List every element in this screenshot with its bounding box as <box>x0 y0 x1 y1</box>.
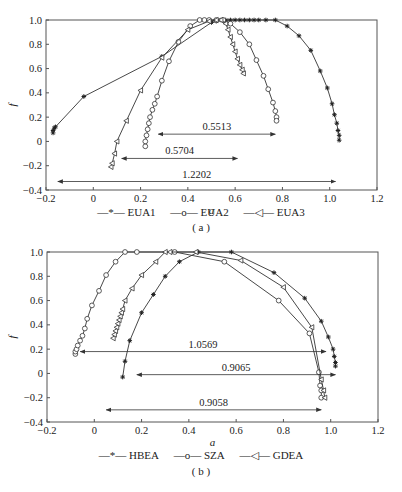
triangle-marker-icon: —◁— <box>243 206 273 218</box>
series-line-sza <box>75 252 321 398</box>
circle-marker-icon: —o— <box>170 206 198 218</box>
distance-label: 1.0569 <box>189 339 218 350</box>
distance-label: 0.5513 <box>202 121 231 132</box>
y-tick-label: 1.0 <box>29 15 42 26</box>
asterisk-marker-icon: —*— <box>99 449 127 461</box>
y-tick-label: 0.6 <box>30 295 43 306</box>
x-tick-label: 0.4 <box>181 193 195 204</box>
y-tick-label: −0.4 <box>24 417 44 428</box>
x-tick-label: 1.0 <box>323 193 336 204</box>
series-line-hbea <box>123 252 336 377</box>
y-tick-label: −0.2 <box>23 160 42 171</box>
y-tick-label: 0.2 <box>30 344 43 355</box>
legend-b: —*— HBEA —o— SZA —◁— GDEA <box>0 449 402 462</box>
circle-marker-icon: —o— <box>174 449 202 461</box>
x-tick-label: 1.2 <box>371 425 384 436</box>
x-tick-label: 0 <box>92 425 97 436</box>
distance-label: 0.9058 <box>199 397 228 408</box>
x-tick-label: 0.8 <box>277 425 290 436</box>
series-line-eua1 <box>53 20 339 140</box>
legend-item-eua1: —*— EUA1 <box>97 206 155 218</box>
y-axis-label: f <box>6 102 18 107</box>
chart-b: −0.200.20.40.60.81.01.2−0.4−0.200.20.40.… <box>0 232 402 457</box>
x-tick-label: 0.2 <box>135 425 148 436</box>
y-tick-label: 0.6 <box>29 63 42 74</box>
legend-item-gdea: —◁— GDEA <box>239 449 303 461</box>
y-tick-label: −0.4 <box>23 185 43 196</box>
distance-label: 1.2202 <box>182 169 211 180</box>
y-tick-label: 0 <box>38 368 43 379</box>
x-tick-label: 1.0 <box>324 425 337 436</box>
x-axis-label: a <box>210 436 216 448</box>
legend-a: —*— EUA1 —o— EUA2 —◁— EUA3 <box>0 206 402 219</box>
distance-label: 0.5704 <box>165 145 195 156</box>
y-tick-label: 0 <box>37 136 42 147</box>
x-tick-label: 0.6 <box>229 193 242 204</box>
legend-item-hbea: —*— HBEA <box>99 449 159 461</box>
y-axis-label: f <box>6 334 18 339</box>
legend-item-eua2: —o— EUA2 <box>170 206 228 218</box>
legend-item-sza: —o— SZA <box>174 449 225 461</box>
y-tick-label: 0.4 <box>29 87 43 98</box>
series-line-gdea <box>113 252 325 398</box>
x-tick-label: 0.2 <box>134 193 147 204</box>
x-tick-label: 0.8 <box>276 193 289 204</box>
y-tick-label: 0.8 <box>30 271 43 282</box>
chart-a: −0.200.20.40.60.81.01.2−0.4−0.200.20.40.… <box>0 0 402 225</box>
panel-label-b: ( b ) <box>0 465 402 477</box>
x-tick-label: 0.6 <box>230 425 243 436</box>
x-tick-label: 0 <box>91 193 96 204</box>
legend-item-eua3: —◁— EUA3 <box>243 206 304 218</box>
y-tick-label: 0.4 <box>30 319 44 330</box>
asterisk-marker-icon: —*— <box>97 206 125 218</box>
distance-label: 0.9065 <box>222 362 251 373</box>
x-tick-label: 0.4 <box>182 425 196 436</box>
y-tick-label: −0.2 <box>24 392 43 403</box>
plot-area <box>46 20 377 190</box>
y-tick-label: 0.8 <box>29 39 42 50</box>
x-tick-label: 1.2 <box>370 193 383 204</box>
triangle-marker-icon: —◁— <box>239 449 269 461</box>
y-tick-label: 1.0 <box>30 247 43 258</box>
y-tick-label: 0.2 <box>29 112 42 123</box>
